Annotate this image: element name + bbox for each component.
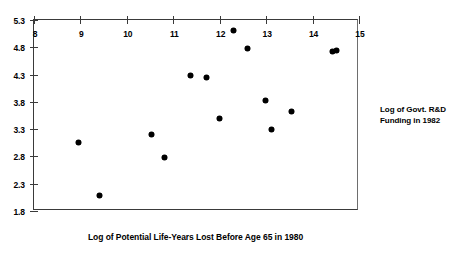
- x-tick: 15: [359, 16, 360, 24]
- data-point: [162, 155, 167, 160]
- data-point: [245, 46, 250, 51]
- data-point: [334, 48, 339, 53]
- data-point: [231, 28, 236, 33]
- y-axis-title-line-2: Funding in 1982: [380, 115, 455, 126]
- y-axis-title: Log of Govt. R&D Funding in 1982: [380, 104, 455, 126]
- scatter-chart-figure: 1.82.32.83.33.84.34.85.3 89101112131415 …: [0, 0, 455, 258]
- x-tick: 14: [313, 16, 314, 24]
- x-tick-label: 10: [123, 29, 132, 39]
- data-point: [263, 98, 268, 103]
- y-tick-label: 2.3: [13, 180, 25, 190]
- y-tick: 2.8: [30, 156, 38, 157]
- plot-area: 1.82.32.83.33.84.34.85.3 89101112131415: [33, 19, 358, 210]
- y-tick-label: 3.3: [13, 125, 25, 135]
- y-tick: 3.3: [30, 129, 38, 130]
- x-tick-label: 11: [170, 29, 179, 39]
- data-point: [149, 132, 154, 137]
- x-tick-label: 14: [309, 29, 318, 39]
- x-tick-label: 13: [263, 29, 272, 39]
- data-point: [76, 140, 81, 145]
- data-point: [188, 73, 193, 78]
- x-axis-title: Log of Potential Life-Years Lost Before …: [33, 232, 358, 242]
- y-tick: 4.3: [30, 75, 38, 76]
- x-tick: 10: [127, 16, 128, 24]
- y-tick: 3.8: [30, 102, 38, 103]
- y-tick-label: 2.8: [13, 152, 25, 162]
- x-tick: 9: [80, 16, 81, 24]
- x-tick-label: 12: [216, 29, 225, 39]
- y-tick-label: 3.8: [13, 98, 25, 108]
- x-tick: 12: [220, 16, 221, 24]
- y-tick: 4.8: [30, 47, 38, 48]
- x-tick: 8: [34, 16, 35, 24]
- data-point: [269, 127, 274, 132]
- x-tick: 11: [173, 16, 174, 24]
- data-point: [217, 116, 222, 121]
- y-tick-label: 1.8: [13, 207, 25, 217]
- data-point: [204, 75, 209, 80]
- x-tick: 13: [266, 16, 267, 24]
- figure-caption-cropped: [22, 252, 442, 258]
- x-tick-label: 9: [79, 29, 84, 39]
- y-axis-title-line-1: Log of Govt. R&D: [380, 104, 455, 115]
- y-tick: 1.8: [30, 211, 38, 212]
- y-tick-label: 4.8: [13, 43, 25, 53]
- y-tick-label: 5.3: [13, 16, 25, 26]
- x-tick-label: 15: [355, 29, 364, 39]
- x-tick-label: 8: [33, 29, 38, 39]
- y-tick-label: 4.3: [13, 71, 25, 81]
- data-point: [97, 193, 102, 198]
- data-point: [289, 109, 294, 114]
- y-tick: 2.3: [30, 184, 38, 185]
